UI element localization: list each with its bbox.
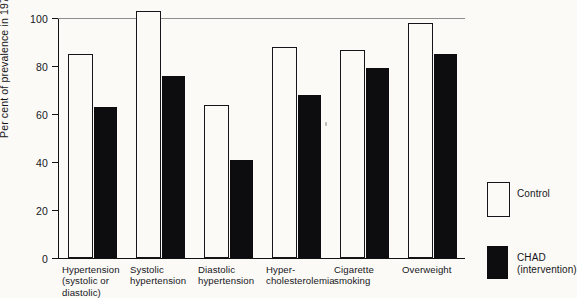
scan-artifact: [325, 122, 327, 126]
bar-control-1: [136, 11, 161, 258]
bar-intervention-1: [162, 76, 185, 258]
bar-control-2: [204, 105, 229, 258]
category-label-5: Overweight: [402, 264, 452, 275]
bar-intervention-0: [94, 107, 117, 258]
y-axis-title: Per cent of prevalence in 1970: [0, 0, 10, 138]
y-tick-label-0: 0: [42, 253, 48, 265]
y-tick-label-40: 40: [36, 157, 48, 169]
category-label-2: Diastolic hypertension: [198, 264, 254, 287]
plot-area: [58, 18, 465, 258]
x-axis-line: [58, 258, 465, 259]
category-label-0: Hypertension (systolic or diastolic): [62, 264, 120, 298]
y-tick-label-100: 100: [30, 13, 48, 25]
legend-label-control: Control: [517, 188, 550, 200]
bar-control-0: [68, 54, 93, 258]
category-label-4: Cigarette smoking: [334, 264, 374, 287]
category-label-3: Hyper- cholesterolemia: [266, 264, 335, 287]
bar-control-4: [340, 50, 365, 258]
bar-control-5: [408, 23, 433, 258]
y-tick-label-20: 20: [36, 205, 48, 217]
y-tick-label-80: 80: [36, 61, 48, 73]
legend-label-intervention: CHAD (intervention): [517, 252, 577, 275]
bar-intervention-3: [298, 95, 321, 258]
bar-intervention-4: [366, 68, 389, 258]
bar-control-3: [272, 47, 297, 258]
bar-intervention-2: [230, 160, 253, 258]
bar-intervention-5: [434, 54, 457, 258]
y-tick-label-60: 60: [36, 109, 48, 121]
legend-swatch-control: [487, 182, 510, 217]
category-label-1: Systolic hypertension: [130, 264, 186, 287]
y-tick-0: 0: [52, 258, 58, 259]
legend-swatch-intervention: [487, 246, 508, 279]
